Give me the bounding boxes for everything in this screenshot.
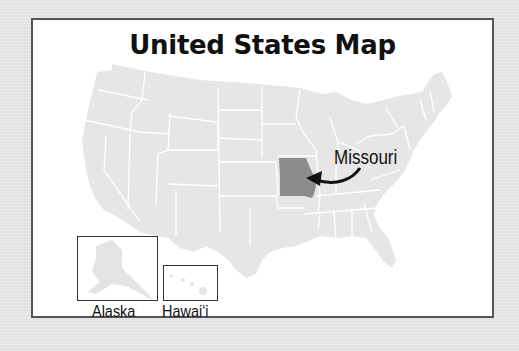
hawaii-islands-inset xyxy=(170,275,208,296)
alaska-shape-inset xyxy=(88,240,152,300)
hawaii-label: Hawai‘i xyxy=(162,302,209,322)
alaska-label: Alaska xyxy=(92,302,135,322)
missouri-label: Missouri xyxy=(334,146,397,169)
inset-shapes xyxy=(0,0,519,351)
